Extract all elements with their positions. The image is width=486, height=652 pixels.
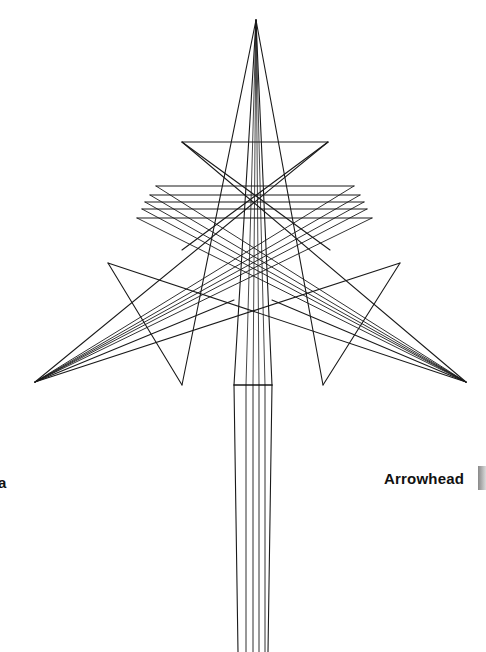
arrowhead-figure: [0, 0, 486, 652]
figure-label-partial: a: [0, 474, 6, 491]
figure-label-arrowhead: Arrowhead: [384, 470, 464, 487]
figure-lines: [35, 20, 466, 652]
page-edge-shadow: [478, 466, 486, 490]
